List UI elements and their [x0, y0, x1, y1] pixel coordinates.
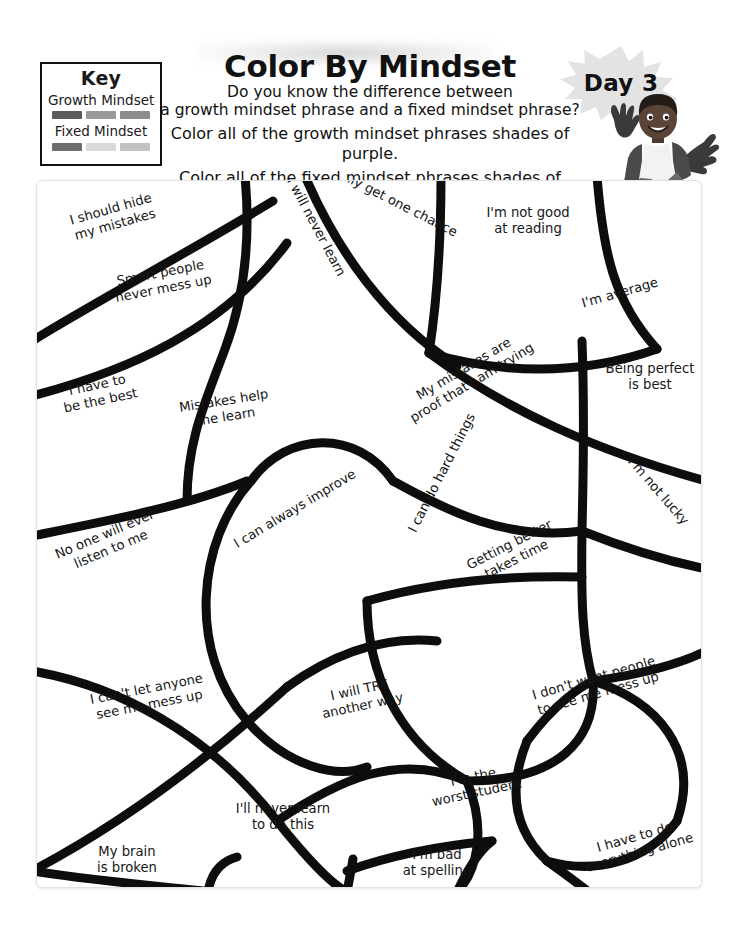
key-growth-swatches — [48, 111, 154, 119]
subtitle-line-1: Do you know the difference between — [160, 83, 580, 102]
fixed-swatch-2 — [86, 143, 116, 151]
puzzle-phrase[interactable]: I'm bad at spelling — [390, 847, 484, 879]
page-title: Color By Mindset — [160, 50, 580, 83]
growth-swatch-3 — [120, 111, 150, 119]
puzzle-phrase[interactable]: I'm not good at reading — [468, 205, 588, 237]
fixed-swatch-1 — [52, 143, 82, 151]
instruction-line-1: Color all of the growth mindset phrases … — [160, 124, 580, 164]
key-growth-label: Growth Mindset — [48, 93, 154, 109]
growth-swatch-2 — [86, 111, 116, 119]
puzzle-phrase[interactable]: I'll never learn to do this — [221, 801, 345, 833]
coloring-puzzle-area[interactable]: I should hide my mistakesSmart people ne… — [36, 180, 702, 888]
key-legend-box: Key Growth Mindset Fixed Mindset — [40, 62, 162, 166]
key-fixed-label: Fixed Mindset — [48, 124, 154, 140]
growth-swatch-1 — [52, 111, 82, 119]
worksheet-header: Key Growth Mindset Fixed Mindset Color B… — [0, 0, 736, 180]
key-title: Key — [48, 68, 154, 90]
subtitle-line-2: a growth mindset phrase and a fixed mind… — [160, 101, 580, 120]
puzzle-phrase[interactable]: Being perfect is best — [590, 361, 702, 393]
puzzle-phrase[interactable]: My brain is broken — [79, 844, 175, 876]
fixed-swatch-3 — [120, 143, 150, 151]
key-fixed-swatches — [48, 143, 154, 151]
